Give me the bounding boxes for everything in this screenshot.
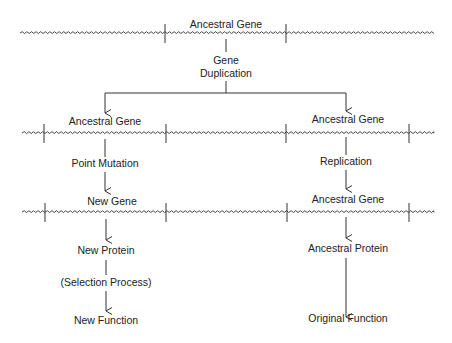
chromosome-middle-wave bbox=[22, 132, 434, 134]
chromosome-bottom-wave bbox=[22, 211, 434, 213]
right-result-gene-label: Ancestral Gene bbox=[312, 193, 385, 205]
replication-label: Replication bbox=[320, 155, 372, 167]
new-protein-label: New Protein bbox=[77, 244, 134, 256]
new-gene-label: New Gene bbox=[87, 195, 137, 207]
chromosome-top-wave bbox=[20, 32, 434, 34]
duplication-label-line1: Gene bbox=[213, 54, 239, 66]
gene-duplication-diagram: Ancestral Gene Gene Duplication Ancestra… bbox=[0, 0, 452, 343]
top-gene-label: Ancestral Gene bbox=[190, 18, 263, 30]
selection-process-label: (Selection Process) bbox=[60, 276, 151, 288]
new-function-label: New Function bbox=[74, 314, 138, 326]
ancestral-protein-label: Ancestral Protein bbox=[308, 242, 388, 254]
duplication-label-line2: Duplication bbox=[200, 67, 252, 79]
right-gene-label: Ancestral Gene bbox=[312, 113, 385, 125]
original-function-label: Original Function bbox=[308, 312, 388, 324]
left-gene-label: Ancestral Gene bbox=[69, 115, 142, 127]
point-mutation-label: Point Mutation bbox=[71, 157, 138, 169]
